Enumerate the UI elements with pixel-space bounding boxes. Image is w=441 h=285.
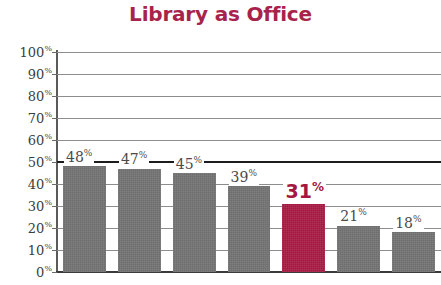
- gridline-50: [57, 161, 441, 163]
- y-axis-tick-labels: 0%10%20%30%40%50%60%70%80%90%100%: [0, 52, 52, 272]
- bar-1[interactable]: [118, 169, 161, 272]
- y-tick-label-100: 100%: [20, 45, 52, 58]
- y-tick-mark-70: [52, 118, 57, 119]
- gridline-100: [57, 52, 441, 53]
- y-tick-mark-80: [52, 96, 57, 97]
- y-tick-label-80: 80%: [28, 89, 52, 102]
- bar-5[interactable]: [337, 226, 380, 272]
- y-tick-label-30: 30%: [28, 199, 52, 212]
- bar-6[interactable]: [392, 232, 435, 272]
- bar-value-label-5: 21%: [338, 209, 368, 224]
- y-tick-label-60: 60%: [28, 133, 52, 146]
- y-tick-mark-60: [52, 140, 57, 141]
- y-tick-mark-50: [52, 162, 57, 163]
- y-tick-mark-10: [52, 250, 57, 251]
- bar-3[interactable]: [228, 186, 271, 272]
- bar-0[interactable]: [63, 166, 106, 272]
- y-tick-label-0: 0%: [36, 265, 52, 278]
- bar-value-label-0: 48%: [64, 149, 94, 164]
- y-tick-label-10: 10%: [28, 243, 52, 256]
- chart-figure: Library as Office 0%10%20%30%40%50%60%70…: [0, 0, 441, 285]
- y-tick-mark-100: [52, 52, 57, 53]
- y-tick-mark-90: [52, 74, 57, 75]
- gridline-80: [57, 96, 441, 97]
- y-tick-label-20: 20%: [28, 221, 52, 234]
- bar-2[interactable]: [173, 173, 216, 272]
- y-tick-label-70: 70%: [28, 111, 52, 124]
- y-tick-mark-0: [52, 272, 57, 273]
- bar-value-label-1: 47%: [119, 152, 149, 167]
- bar-value-label-2: 45%: [174, 156, 204, 171]
- bar-value-label-3: 39%: [229, 169, 259, 184]
- gridline-60: [57, 140, 441, 141]
- chart-title: Library as Office: [0, 2, 441, 26]
- y-tick-mark-40: [52, 184, 57, 185]
- y-tick-label-40: 40%: [28, 177, 52, 190]
- gridline-90: [57, 74, 441, 75]
- plot-area: 48%47%45%39%31%21%18%: [57, 52, 441, 272]
- y-tick-label-90: 90%: [28, 67, 52, 80]
- y-tick-mark-30: [52, 206, 57, 207]
- gridline-70: [57, 118, 441, 119]
- bar-value-label-6: 18%: [393, 215, 423, 230]
- bar-value-label-4: 31%: [283, 181, 325, 201]
- y-tick-label-50: 50%: [28, 155, 52, 168]
- y-tick-mark-20: [52, 228, 57, 229]
- bar-4[interactable]: [282, 204, 325, 272]
